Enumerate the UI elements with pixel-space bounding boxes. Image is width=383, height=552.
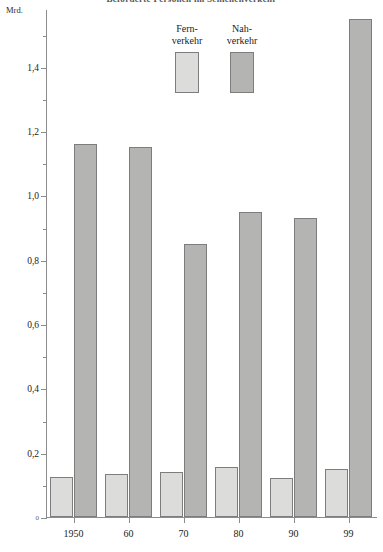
y-tick-label: 0,6 (27, 320, 39, 330)
legend-label-fernverkehr-line1: Fern- (158, 23, 216, 35)
y-axis-unit-label: Mrd. (6, 5, 23, 15)
bar-nah-80 (239, 212, 262, 517)
x-tick (239, 518, 240, 523)
bar-nah-70 (184, 244, 207, 517)
legend-item-nahverkehr: Nah- verkehr (213, 23, 271, 93)
bar-fern-1950 (50, 477, 73, 517)
y-tick-major (41, 518, 47, 519)
bar-fern-80 (215, 467, 238, 517)
legend-label-nahverkehr-line1: Nah- (213, 23, 271, 35)
bar-nah-99 (349, 19, 372, 517)
y-tick-label: 1,2 (27, 127, 39, 137)
y-tick-label: 0,2 (27, 449, 39, 459)
x-tick-label-80: 80 (234, 528, 244, 539)
x-tick-label-99: 99 (344, 528, 354, 539)
y-tick-label: 0,4 (27, 384, 39, 394)
y-tick-label: 1,4 (27, 63, 39, 73)
bar-fern-90 (270, 478, 293, 517)
legend-label-nahverkehr-line2: verkehr (213, 35, 271, 47)
legend-item-fernverkehr: Fern- verkehr (158, 23, 216, 93)
legend-swatch-nahverkehr (230, 52, 254, 93)
bar-fern-60 (105, 474, 128, 517)
y-tick-label: 0 (36, 514, 40, 522)
chart-root: Beförderte Personen im Schienenverkehr M… (0, 0, 383, 552)
bar-fern-99 (325, 469, 348, 517)
chart-title: Beförderte Personen im Schienenverkehr (0, 0, 383, 2)
bar-nah-60 (129, 147, 152, 517)
y-tick-label: 0,8 (27, 256, 39, 266)
bar-nah-90 (294, 218, 317, 517)
x-tick (129, 518, 130, 523)
plot-area: 00,20,40,60,81,01,21,4 19506070809099 Fe… (46, 10, 376, 518)
legend-label-fernverkehr-line2: verkehr (158, 35, 216, 47)
x-tick-label-90: 90 (289, 528, 299, 539)
y-tick-label: 1,0 (27, 191, 39, 201)
bar-nah-1950 (74, 144, 97, 517)
x-tick-label-60: 60 (124, 528, 134, 539)
x-tick-label-70: 70 (179, 528, 189, 539)
x-tick (349, 518, 350, 523)
x-tick (184, 518, 185, 523)
x-tick-label-1950: 1950 (64, 528, 84, 539)
x-tick (294, 518, 295, 523)
legend-swatch-fernverkehr (175, 52, 199, 93)
x-tick (74, 518, 75, 523)
bar-fern-70 (160, 472, 183, 517)
